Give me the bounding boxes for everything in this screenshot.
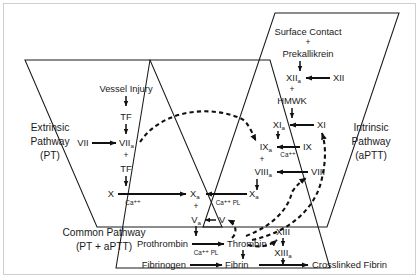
calcium-under-ix-label: Ca++ [280,149,296,158]
factor-vii-label: VII [77,137,88,148]
prothrombin-label: Prothrombin [137,238,188,249]
factor-va-label: Va [191,214,201,226]
thrombin-label: Thrombin [227,238,267,249]
fibrinogen-label: Fibrinogen [142,259,186,270]
dashed-arrow-viia-to-ixa [140,111,256,142]
feedback-arrows [140,111,325,246]
hmwk-label: HMWK [277,95,307,106]
common-pathway-label-line2: (PT + aPTT) [76,241,132,252]
fibrin-label: Fibrin [225,259,248,270]
plus-sign-xiia: + [290,84,295,94]
plus-sign-viia: + [124,150,129,160]
factor-xa-center-label: Xa [190,188,200,200]
plus-sign-xa: + [194,201,199,211]
coagulation-cascade-figure: Extrinsic Pathway (PT) Intrinsic Pathway… [0,0,419,280]
factor-xii-label: XII [333,72,344,83]
extrinsic-pathway-label-line1: Extrinsic [31,122,70,133]
factor-xiia-label: XIIa [286,72,301,84]
plus-sign-ixa: + [260,154,265,164]
factor-viia-label: VIIa [119,137,134,149]
tissue-factor-top-label: TF [120,111,132,122]
factor-ix-label: IX [303,141,313,152]
factor-ixa-label: IXa [260,141,273,153]
calcium-pl-under-prothrombin-label: Ca++ PL [194,247,219,256]
extrinsic-arm: Vessel Injury TF VII VIIa + TF [77,83,153,186]
dashed-arrow-thrombin-to-v [228,220,235,238]
intrinsic-arm: Surface Contact + Prekallikrein XIIa XII… [254,26,344,190]
crosslinked-fibrin-label: Crosslinked Fibrin [312,259,387,270]
common-pathway-arm: X Ca++ Xa Xa Ca++ PL + Va V Prothrombin … [108,188,387,270]
cascade-diagram-svg: Extrinsic Pathway (PT) Intrinsic Pathway… [0,0,419,280]
tissue-factor-mid-label: TF [120,163,132,174]
extrinsic-pathway-label-line2: Pathway [30,136,70,147]
factor-viiia-label: VIIIa [254,166,272,178]
factor-x-left-label: X [108,188,115,199]
factor-xiiia-label: XIIIa [274,247,292,259]
surface-contact-label: Surface Contact [274,26,342,37]
intrinsic-pathway-label-line1: Intrinsic [353,122,388,133]
calcium-pl-under-xa-label: Ca++ PL [216,197,241,206]
vessel-injury-label: Vessel Injury [99,83,152,94]
prekallikrein-label: Prekallikrein [282,48,333,59]
factor-xi-label: XI [317,119,326,130]
intrinsic-pathway-label-line3: (aPTT) [355,150,387,161]
plus-sign-surface-contact: + [306,37,311,47]
intrinsic-pathway-label-line2: Pathway [351,136,391,147]
factor-v-label: V [219,214,226,225]
extrinsic-pathway-label-line3: (PT) [40,150,60,161]
factor-xia-label: XIa [273,119,286,131]
calcium-under-x-label: Ca++ [125,197,141,206]
common-pathway-label-line1: Common Pathway [62,227,146,238]
